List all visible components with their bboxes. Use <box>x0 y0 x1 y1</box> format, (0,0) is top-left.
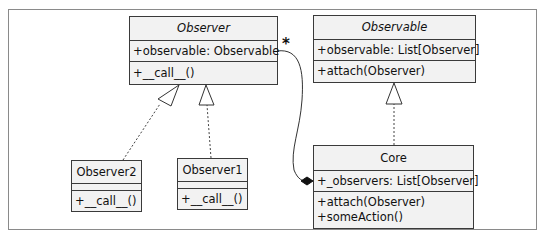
attribute: +observable: Observable <box>133 41 274 61</box>
class-observer1[interactable]: Observer1 +__call__() <box>177 158 248 210</box>
methods-section: +attach(Observer) +someAction() <box>314 192 473 228</box>
class-name: Observer2 <box>72 161 141 184</box>
attributes-section: +_observers: List[Observer] <box>314 171 473 192</box>
class-observer2[interactable]: Observer2 +__call__() <box>71 160 142 212</box>
class-name: Core <box>314 146 473 171</box>
attribute: +observable: List[Observer] <box>317 40 472 60</box>
attributes-section: +observable: List[Observer] <box>314 40 475 61</box>
attributes-section <box>178 182 247 189</box>
composition-core-observer <box>277 51 313 185</box>
method: +someAction() <box>317 210 470 225</box>
method: +__call__() <box>75 191 138 211</box>
methods-section: +__call__() <box>72 191 141 211</box>
class-core[interactable]: Core +_observers: List[Observer] +attach… <box>313 145 474 229</box>
class-name: Observable <box>314 16 475 40</box>
class-name: Observer1 <box>178 159 247 182</box>
method: +__call__() <box>133 62 274 84</box>
attributes-section: +observable: Observable <box>130 41 277 62</box>
methods-section: +__call__() <box>130 62 277 84</box>
attribute: +_observers: List[Observer] <box>317 171 470 191</box>
attributes-section <box>72 184 141 191</box>
class-observable[interactable]: Observable +observable: List[Observer] +… <box>313 15 476 83</box>
multiplicity-label: * <box>282 35 290 53</box>
class-name: Observer <box>130 17 277 41</box>
methods-section: +attach(Observer) <box>314 61 475 82</box>
realization-observer2-observer <box>123 85 179 160</box>
methods-section: +__call__() <box>178 189 247 209</box>
method: +__call__() <box>181 189 244 209</box>
method: +attach(Observer) <box>317 61 472 82</box>
method: +attach(Observer) <box>317 195 470 210</box>
realization-core-observable <box>386 83 402 145</box>
class-observer[interactable]: Observer +observable: Observable +__call… <box>129 16 278 85</box>
realization-observer1-observer <box>199 85 214 158</box>
